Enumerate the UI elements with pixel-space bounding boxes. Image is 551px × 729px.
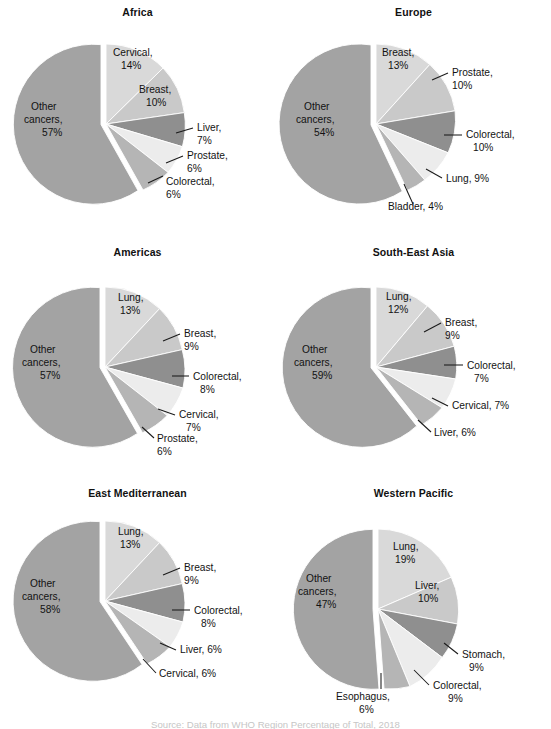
label-prostate: Prostate, — [452, 67, 493, 78]
label-other-cancers-value: 47% — [316, 599, 336, 610]
label-breast: Breast, — [184, 562, 216, 573]
label-other-cancers: Other — [30, 578, 56, 589]
label-prostate: Prostate, — [187, 150, 228, 161]
figure-caption: Source: Data from WHO Region Percentage … — [0, 718, 551, 729]
label-lung-value: 13% — [120, 539, 140, 550]
label-other-cancers-line2: cancers, — [22, 357, 61, 368]
pie-svg-east-mediterranean: Lung, 13% Breast, 9% Colorectal, 8% Live… — [0, 481, 275, 719]
label-breast: Breast, — [139, 84, 171, 95]
label-breast: Breast, — [184, 328, 216, 339]
label-other-cancers: Other — [30, 344, 56, 355]
chart-europe: Europe Breast, 13% Prostate, 10% Colorec… — [276, 0, 551, 238]
label-liver: Liver, — [415, 580, 439, 591]
label-lung: Lung, — [118, 292, 144, 303]
label-liver: Liver, — [197, 122, 221, 133]
label-liver: Liver, 6% — [180, 644, 222, 655]
label-colorectal: Colorectal, — [166, 176, 215, 187]
label-prostate-value: 6% — [157, 446, 172, 457]
label-breast-value: 9% — [184, 575, 199, 586]
label-other-cancers-line2: cancers, — [296, 114, 335, 125]
chart-africa: Africa Cervical, 14% Breast, 10% Liver, … — [0, 0, 275, 238]
pie-svg-americas: Lung, 13% Breast, 9% Colorectal, 8% Cerv… — [0, 240, 275, 478]
label-liver-value: 7% — [197, 135, 212, 146]
label-lung: Lung, — [118, 526, 144, 537]
label-other-cancers-line2: cancers, — [22, 591, 61, 602]
label-other-cancers-value: 54% — [314, 127, 334, 138]
label-colorectal: Colorectal, — [194, 605, 243, 616]
label-cervical: Cervical, — [113, 47, 153, 58]
label-colorectal-value: 8% — [200, 384, 215, 395]
label-breast-value: 9% — [184, 341, 199, 352]
label-stomach: Stomach, — [462, 649, 505, 660]
label-breast-value: 9% — [445, 330, 460, 341]
label-cervical-value: 7% — [186, 422, 201, 433]
label-prostate-value: 6% — [187, 163, 202, 174]
pie-svg-western-pacific: Lung, 19% Liver, 10% Stomach, 9% Colorec… — [276, 481, 551, 719]
label-colorectal-value: 7% — [474, 373, 489, 384]
chart-east-mediterranean: East Mediterranean Lung, 13% Breast, 9% … — [0, 481, 275, 719]
label-colorectal-value: 9% — [448, 693, 463, 704]
label-cervical-value: 14% — [121, 60, 141, 71]
label-prostate-value: 10% — [452, 80, 472, 91]
label-liver-value: 10% — [418, 593, 438, 604]
label-other-cancers: Other — [31, 101, 57, 112]
label-other-cancers: Other — [304, 101, 330, 112]
label-other-cancers-value: 58% — [40, 604, 60, 615]
label-colorectal-value: 8% — [201, 618, 216, 629]
label-colorectal: Colorectal, — [467, 360, 516, 371]
label-cervical: Cervical, 7% — [452, 400, 509, 411]
pie-chart-figure: Africa Cervical, 14% Breast, 10% Liver, … — [0, 0, 551, 729]
label-colorectal: Colorectal, — [466, 129, 515, 140]
label-other-cancers-line2: cancers, — [298, 586, 337, 597]
label-breast-value: 10% — [146, 97, 166, 108]
label-cervical: Cervical, 6% — [159, 668, 216, 679]
label-other-cancers-value: 57% — [40, 370, 60, 381]
label-colorectal-value: 10% — [473, 142, 493, 153]
label-prostate: Prostate, — [157, 433, 198, 444]
label-stomach-value: 9% — [469, 662, 484, 673]
label-breast: Breast, — [445, 317, 477, 328]
label-lung-value: 12% — [388, 304, 408, 315]
label-colorectal: Colorectal, — [433, 680, 482, 691]
pie-svg-south-east-asia: Lung, 12% Breast, 9% Colorectal, 7% Cerv… — [276, 240, 551, 478]
label-liver: Liver, 6% — [434, 427, 476, 438]
label-lung-value: 19% — [395, 554, 415, 565]
pie-svg-africa: Cervical, 14% Breast, 10% Liver, 7% Pros… — [0, 0, 275, 238]
label-lung: Lung, 9% — [446, 173, 489, 184]
label-colorectal: Colorectal, — [193, 371, 242, 382]
label-other-cancers: Other — [306, 573, 332, 584]
label-esophagus: Esophagus, — [336, 691, 390, 702]
chart-americas: Americas Lung, 13% Breast, 9% Colorectal… — [0, 240, 275, 478]
chart-western-pacific: Western Pacific Lung, 19% Liver, 10% Sto… — [276, 481, 551, 719]
label-other-cancers-line2: cancers, — [24, 114, 63, 125]
chart-south-east-asia: South-East Asia Lung, 12% Breast, 9% Col… — [276, 240, 551, 478]
label-breast: Breast, — [382, 47, 414, 58]
label-lung: Lung, — [393, 541, 419, 552]
label-breast-value: 13% — [388, 60, 408, 71]
label-colorectal-value: 6% — [166, 189, 181, 200]
label-bladder: Bladder, 4% — [388, 201, 443, 212]
label-lung-value: 13% — [120, 305, 140, 316]
label-other-cancers-value: 59% — [312, 370, 332, 381]
label-other-cancers-line2: cancers, — [294, 357, 333, 368]
pie-svg-europe: Breast, 13% Prostate, 10% Colorectal, 10… — [276, 0, 551, 238]
label-esophagus-value: 6% — [359, 704, 374, 715]
label-lung: Lung, — [386, 291, 412, 302]
label-other-cancers-value: 57% — [42, 127, 62, 138]
label-cervical: Cervical, — [179, 409, 219, 420]
label-other-cancers: Other — [302, 344, 328, 355]
